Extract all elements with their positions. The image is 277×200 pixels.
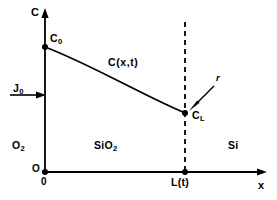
point-marker-origin: [42, 169, 48, 175]
point-label-cl-text: C: [192, 109, 200, 121]
diagram-vector-layer: [0, 0, 277, 200]
point-marker-cl: [182, 110, 188, 116]
region-label-silicon-text: Si: [228, 139, 239, 151]
region-label-oxide: SiO2: [94, 140, 117, 152]
point-label-c0-text: C: [50, 32, 58, 44]
region-label-oxide-sub: 2: [113, 144, 117, 153]
region-label-oxide-text: SiO: [94, 139, 113, 151]
flux-label-j0: J0: [13, 83, 23, 95]
origin-y-label: O: [32, 164, 40, 174]
point-label-cl: CL: [192, 110, 205, 122]
y-axis: [41, 8, 48, 172]
x-axis-label: x: [258, 180, 264, 191]
y-axis-label: C: [31, 7, 39, 18]
curve-label: C(x,t): [108, 57, 138, 68]
r-leader-arrow: [189, 86, 214, 111]
region-label-silicon: Si: [228, 140, 239, 152]
origin-x-label: 0: [41, 177, 47, 187]
region-label-oxygen: O2: [12, 140, 25, 152]
region-label-oxygen-sub: 2: [20, 144, 24, 153]
point-marker-lt: [182, 169, 188, 175]
point-label-cl-sub: L: [200, 114, 205, 123]
annotation-label-r: r: [216, 73, 220, 83]
point-label-c0-sub: 0: [58, 37, 62, 46]
point-marker-c0: [42, 44, 48, 50]
figure-canvas: C x O 0 J0 C0 CL L(t) C(x,t) r O2 SiO2 S…: [0, 0, 277, 200]
x-axis: [45, 168, 267, 175]
flux-label-sub: 0: [19, 87, 23, 96]
point-label-c0: C0: [50, 33, 62, 45]
point-label-lt: L(t): [171, 177, 189, 188]
